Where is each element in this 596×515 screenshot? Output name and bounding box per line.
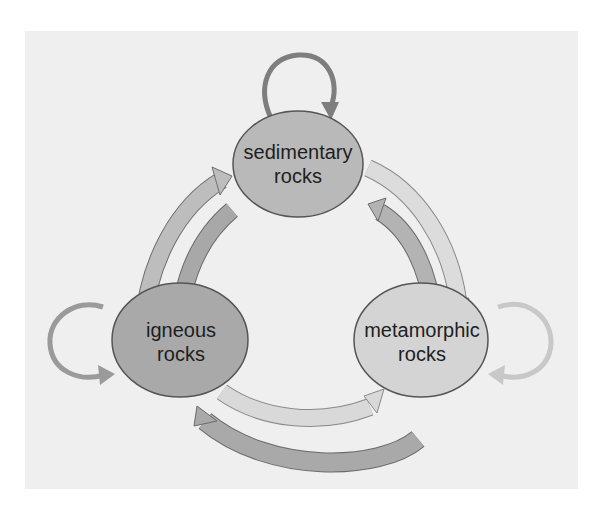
node-label-line2: rocks: [398, 343, 446, 365]
rock-cycle-diagram: sedimentary rocks igneous rocks metamorp…: [0, 0, 596, 515]
node-igneous-rocks: igneous rocks: [112, 283, 248, 397]
node-label-line1: igneous: [146, 319, 216, 341]
node-label-line2: rocks: [274, 165, 322, 187]
node-label-line1: sedimentary: [244, 141, 353, 163]
node-label-line2: rocks: [157, 343, 205, 365]
node-sedimentary-rocks: sedimentary rocks: [233, 111, 363, 217]
node-metamorphic-rocks: metamorphic rocks: [354, 283, 488, 397]
node-label-line1: metamorphic: [364, 319, 480, 341]
